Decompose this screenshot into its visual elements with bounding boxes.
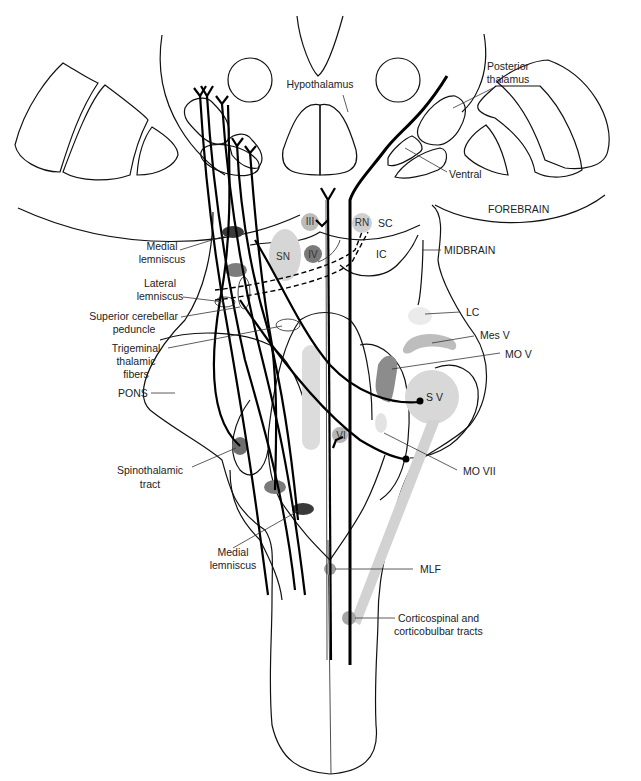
label-mlf: MLF [420,563,441,575]
label-lc: LC [466,306,480,318]
label-mes-v: Mes V [480,329,510,341]
label-trigeminal-line2: thalamic [116,355,155,367]
label-trigeminal-line3: fibers [123,368,149,380]
nucleus-iii-label: III [306,216,314,227]
tract-3 [222,104,305,595]
label-trigeminal-line1: Trigeminal [112,342,161,354]
label-spinothalamic-line1: Spinothalamic [117,464,183,476]
brainstem-outline [143,205,486,774]
label-s-v: S V [426,391,443,403]
brainstem-diagram: III RN SN IV VI [0,0,641,781]
nucleus-iv-label: IV [308,249,318,260]
label-ventral: Ventral [449,168,482,180]
label-posterior-thalamus-line1: Posterior [487,60,530,72]
pons-left-boundary [160,333,305,405]
tract-end-2 [201,86,213,96]
left-internal-capsule [137,127,178,175]
spinal-trigeminal-tract [351,420,440,625]
label-corticospinal-line2: corticobulbar tracts [394,625,483,637]
label-scp-line1: Superior cerebellar [89,310,178,322]
label-medial-lemniscus-bottom-line2: lemniscus [210,559,257,571]
label-lateral-lemniscus-line1: Lateral [144,277,176,289]
tract-4 [237,145,298,520]
hypothalamus-right [320,104,357,175]
tract-end-4 [232,138,243,146]
leader-spinothalamic [192,448,236,467]
mlf-tract-thin [326,200,327,660]
right-circle [376,58,420,102]
medial-lemniscus-bottom-marker [292,503,314,515]
hemisphere-arc-right [462,34,486,112]
nucleus-mes-v [403,334,456,354]
nucleus-sn-label: SN [276,251,290,262]
label-scp-line2: peduncle [113,323,156,335]
label-forebrain: FOREBRAIN [488,203,549,215]
left-circle [228,58,272,102]
medulla-outline [270,600,378,774]
label-mo-v: MO V [505,348,532,360]
label-pons: PONS [118,387,148,399]
midline-notch [297,16,343,76]
labels: Hypothalamus Posterior thalamus Ventral … [89,60,549,637]
label-lateral-lemniscus-line2: lemniscus [137,290,184,302]
tract-end-3 [216,96,228,104]
posterior-thalamus [417,96,465,145]
label-posterior-thalamus-line2: thalamus [487,73,530,85]
nucleus-mo-v [376,356,398,403]
label-hypothalamus: Hypothalamus [286,78,353,90]
label-sc: SC [378,217,393,229]
mlf-top-fork [321,188,335,200]
nucleus-rn-label: RN [355,217,369,228]
label-ic: IC [376,248,387,260]
label-midbrain: MIDBRAIN [444,244,495,256]
label-corticospinal-line1: Corticospinal and [398,612,479,624]
mo-vii-terminal-dot [403,456,410,463]
left-globus-pallidus [63,85,148,180]
s-v-terminal-dot [417,398,424,405]
nucleus-lc [408,307,432,325]
leader-medial-lemniscus-top [180,235,228,250]
right-globus-pallidus [478,86,582,177]
nucleus-mo-vii [375,413,387,433]
leader-mo-v [392,353,500,369]
hypothalamus-left [283,104,320,175]
medial-longitudinal-bar [302,345,320,450]
label-mo-vii: MO VII [463,465,496,477]
label-spinothalamic-line2: tract [140,478,161,490]
leader-hypothalamus [343,95,348,112]
label-medial-lemniscus-top-line2: lemniscus [139,253,186,265]
label-medial-lemniscus-top-line1: Medial [147,240,178,252]
